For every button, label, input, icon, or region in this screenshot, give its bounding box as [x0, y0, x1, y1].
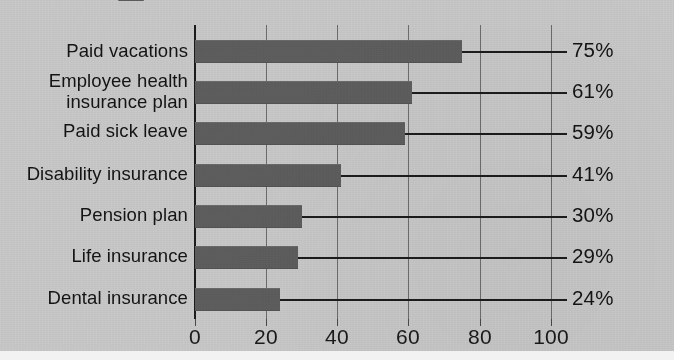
bar-disability-insurance — [195, 164, 341, 187]
category-label-life-insurance: Life insurance — [71, 245, 188, 266]
xtick-label-60: 60 — [396, 325, 420, 349]
value-label-disability-insurance: 41% — [572, 162, 614, 186]
leader-line-disability-insurance — [341, 175, 567, 177]
xtick-label-0: 0 — [189, 325, 201, 349]
category-label-paid-sick-leave: Paid sick leave — [63, 120, 188, 141]
page-bottom-edge — [0, 351, 674, 360]
category-label-disability-insurance: Disability insurance — [27, 163, 188, 184]
chart-plot-area: 0 20 40 60 80 100 Paid vacations Employe… — [0, 0, 674, 360]
value-label-pension-plan: 30% — [572, 203, 614, 227]
xtick-label-40: 40 — [325, 325, 349, 349]
bar-dental-insurance — [195, 288, 280, 311]
leader-line-employee-health — [412, 92, 567, 94]
value-label-life-insurance: 29% — [572, 244, 614, 268]
leader-line-paid-vacations — [462, 51, 567, 53]
category-label-dental-insurance: Dental insurance — [48, 287, 188, 308]
leader-line-paid-sick-leave — [405, 133, 567, 135]
xtick-label-80: 80 — [468, 325, 492, 349]
gridline-80 — [480, 25, 481, 319]
gridline-60 — [408, 25, 409, 319]
category-label-employee-health-insurance-plan: Employee health insurance plan — [49, 70, 188, 112]
bar-paid-vacations — [195, 40, 462, 63]
gridline-100 — [551, 25, 552, 319]
value-label-paid-vacations: 75% — [572, 38, 614, 62]
xtick-label-20: 20 — [254, 325, 278, 349]
leader-line-dental-insurance — [280, 299, 567, 301]
leader-line-life-insurance — [298, 257, 567, 259]
chart-page: 0 20 40 60 80 100 Paid vacations Employe… — [0, 0, 674, 360]
xtick-label-100: 100 — [533, 325, 569, 349]
category-label-pension-plan: Pension plan — [80, 204, 188, 225]
bar-life-insurance — [195, 246, 298, 269]
bar-paid-sick-leave — [195, 122, 405, 145]
value-label-employee-health: 61% — [572, 79, 614, 103]
cropped-title-fragment — [118, 0, 144, 1]
leader-line-pension-plan — [302, 216, 567, 218]
value-label-dental-insurance: 24% — [572, 286, 614, 310]
bar-employee-health — [195, 81, 412, 104]
bar-pension-plan — [195, 205, 302, 228]
category-label-paid-vacations: Paid vacations — [66, 40, 188, 61]
value-label-paid-sick-leave: 59% — [572, 120, 614, 144]
